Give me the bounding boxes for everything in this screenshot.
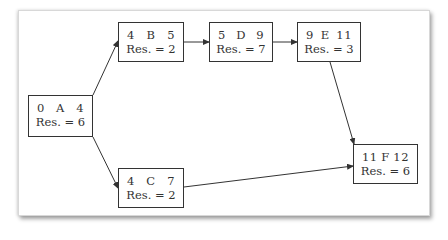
resource-label: Res. = 6 bbox=[29, 115, 92, 129]
activity-id: D bbox=[236, 28, 246, 42]
activity-node-d: 5 D 9 Res. = 7 bbox=[209, 22, 273, 62]
edge-c-f bbox=[184, 166, 353, 187]
early-finish: 5 bbox=[167, 28, 175, 42]
activity-node-c: 4 C 7 Res. = 2 bbox=[118, 168, 184, 208]
early-start: 11 bbox=[362, 150, 378, 164]
activity-id: E bbox=[321, 28, 330, 42]
resource-label: Res. = 6 bbox=[354, 164, 417, 178]
early-start: 0 bbox=[37, 101, 45, 115]
early-start: 4 bbox=[127, 174, 135, 188]
node-header: 4 B 5 bbox=[119, 28, 183, 42]
node-header: 4 C 7 bbox=[119, 174, 183, 188]
activity-id: F bbox=[381, 150, 389, 164]
node-header: 5 D 9 bbox=[210, 28, 272, 42]
early-start: 9 bbox=[306, 28, 314, 42]
edge-a-c bbox=[93, 137, 118, 188]
resource-label: Res. = 7 bbox=[210, 42, 272, 56]
edge-e-f bbox=[330, 62, 354, 144]
activity-node-b: 4 B 5 Res. = 2 bbox=[118, 22, 184, 62]
early-start: 5 bbox=[218, 28, 226, 42]
activity-id: A bbox=[56, 101, 65, 115]
activity-id: B bbox=[147, 28, 156, 42]
early-finish: 11 bbox=[336, 28, 352, 42]
activity-id: C bbox=[146, 174, 155, 188]
early-finish: 7 bbox=[167, 174, 175, 188]
resource-label: Res. = 2 bbox=[119, 42, 183, 56]
activity-node-a: 0 A 4 Res. = 6 bbox=[28, 95, 93, 137]
early-finish: 9 bbox=[256, 28, 264, 42]
early-finish: 4 bbox=[76, 101, 84, 115]
node-header: 0 A 4 bbox=[29, 101, 92, 115]
early-start: 4 bbox=[127, 28, 135, 42]
resource-label: Res. = 3 bbox=[298, 42, 360, 56]
activity-node-f: 11 F 12 Res. = 6 bbox=[353, 144, 418, 184]
node-header: 11 F 12 bbox=[354, 150, 417, 164]
node-header: 9 E 11 bbox=[298, 28, 360, 42]
early-finish: 12 bbox=[393, 150, 409, 164]
activity-node-e: 9 E 11 Res. = 3 bbox=[297, 22, 361, 62]
resource-label: Res. = 2 bbox=[119, 188, 183, 202]
edge-a-b bbox=[93, 41, 118, 95]
